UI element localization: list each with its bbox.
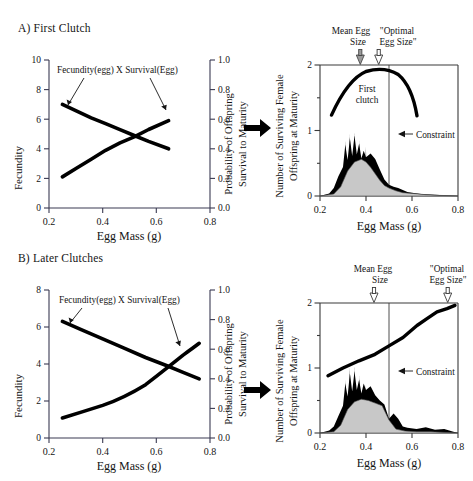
flow-arrow-b-icon [244, 378, 272, 406]
xtick-b-right-04: 0.4 [360, 441, 373, 452]
y-ticks-left-b [44, 290, 49, 438]
ytick-b-right-panel-0: 0 [307, 428, 312, 438]
survival-curve-b [62, 343, 199, 418]
curve-label-a-line2: clutch [356, 95, 379, 105]
axis-label-survival-a-line1: Probability of Offspring [223, 93, 234, 195]
constraint-label-a: Constraint [416, 130, 455, 140]
y-ticks-b-right [315, 303, 321, 433]
panel-b-right-chart: Number of Surviving Female Offspring at … [272, 255, 473, 481]
ytick-a-right-panel-2: 2 [307, 60, 312, 70]
axis-label-offspring-a-line2: Offspring at Maturity [288, 90, 299, 181]
mean-egg-size-label-a-line2: Size [350, 37, 366, 47]
xtick-a-right-04: 0.4 [360, 204, 373, 215]
ytick-a-left-4: 4 [36, 144, 41, 154]
panel-b-left-chart: Fecundity 0 2 4 6 8 [0, 278, 250, 473]
optimal-egg-size-label-a-line1: "Optimal [380, 26, 415, 36]
fecundity-survival-svg-b: Fecundity 0 2 4 6 8 [0, 278, 250, 473]
ytick-a-left-6: 6 [36, 115, 41, 125]
panel-a-left-chart: Fecundity 0 2 4 6 8 10 [0, 48, 250, 243]
axis-label-survival-wrap-b: Probability of Offspring Survival to Mat… [215, 278, 275, 473]
ytick-a-left-0: 0 [36, 203, 41, 213]
constraint-label-b: Constraint [416, 367, 455, 377]
mean-egg-size-label-a-line1: Mean Egg [332, 26, 371, 36]
xtick-b-right-06: 0.6 [406, 441, 419, 452]
axis-label-eggmass-b-left: Egg Mass (g) [97, 459, 162, 473]
x-ticks-b-left [49, 438, 210, 443]
optimal-egg-size-marker-b [444, 288, 452, 303]
flow-arrow-a-icon [244, 116, 272, 144]
xtick-a-left-02: 0.2 [43, 216, 56, 227]
axis-label-eggmass-a-left: Egg Mass (g) [97, 229, 162, 243]
axis-label-eggmass-b-right: Egg Mass (g) [357, 456, 422, 470]
axis-label-survival-wrap-a: Probability of Offspring Survival to Mat… [215, 48, 275, 243]
fitness-curve-path-b [328, 305, 455, 375]
ytick-b-right-panel-1: 1 [307, 363, 312, 373]
ytick-b-left-8: 8 [36, 285, 41, 295]
ytick-a-left-8: 8 [36, 85, 41, 95]
ytick-a-left-10: 10 [32, 55, 42, 65]
section-title-b: B) Later Clutches [18, 252, 103, 264]
x-ticks-a-right [320, 196, 458, 201]
ytick-b-left-0: 0 [36, 433, 41, 443]
annotation-label-b: Fecundity(egg) X Survival(Egg) [59, 295, 180, 306]
optimal-egg-size-label-a-line2: Egg Size" [379, 37, 416, 47]
axis-label-eggmass-a-right: Egg Mass (g) [357, 219, 422, 233]
optimal-egg-size-marker-a [375, 50, 383, 65]
fecundity-curve-b [62, 321, 199, 378]
panel-a-right-chart: Number of Surviving Female Offspring at … [272, 14, 473, 246]
xtick-a-right-06: 0.6 [406, 204, 419, 215]
xtick-a-right-02: 0.2 [314, 204, 327, 215]
xtick-b-right-08: 0.8 [452, 441, 465, 452]
mean-egg-size-marker-a [356, 50, 364, 65]
mean-egg-size-label-b-line2: Size [372, 275, 388, 285]
ytick-a-right-panel-0: 0 [307, 191, 312, 201]
axis-label-offspring-a-line1: Number of Surviving Female [274, 74, 285, 198]
annotation-label-a: Fecundity(egg) X Survival(Egg) [57, 65, 178, 76]
ytick-a-left-2: 2 [36, 174, 41, 184]
axis-label-fecundity-b: Fecundity [12, 374, 24, 418]
axis-label-survival-b-line1: Probability of Offspring [223, 323, 234, 425]
y-ticks-a-right [315, 65, 321, 196]
x-ticks-a-left [49, 208, 210, 213]
ytick-b-left-6: 6 [36, 322, 41, 332]
y-ticks-left-a [44, 60, 49, 208]
constraint-annotation-b: Constraint [398, 367, 455, 377]
annotation-arrows-b [70, 308, 180, 346]
xtick-b-left-04: 0.4 [96, 446, 109, 457]
xtick-b-left-06: 0.6 [150, 446, 163, 457]
mean-egg-size-label-b-line1: Mean Egg [354, 264, 393, 274]
constraint-annotation-a: Constraint [398, 130, 455, 140]
ytick-b-right-panel-2: 2 [307, 298, 312, 308]
mean-egg-size-marker-b [370, 288, 378, 303]
optimal-egg-size-label-b-line1: "Optimal [430, 264, 465, 274]
xtick-b-left-02: 0.2 [43, 446, 56, 457]
x-ticks-b-right [320, 433, 458, 438]
xtick-b-right-02: 0.2 [314, 441, 327, 452]
curve-label-a-line1: First [358, 84, 375, 94]
ytick-b-left-2: 2 [36, 396, 41, 406]
axis-label-offspring-b-line2: Offspring at Maturity [288, 335, 299, 426]
ytick-b-left-4: 4 [36, 359, 41, 369]
xtick-a-left-04: 0.4 [96, 216, 109, 227]
annotation-arrows-a [68, 78, 166, 110]
surviving-offspring-svg-a: Number of Surviving Female Offspring at … [272, 14, 473, 246]
xtick-a-right-08: 0.8 [452, 204, 465, 215]
surviving-offspring-svg-b: Number of Surviving Female Offspring at … [272, 255, 473, 481]
section-title-a: A) First Clutch [18, 22, 91, 34]
optimal-egg-size-label-b-line2: Egg Size" [429, 275, 466, 285]
axis-label-fecundity-a: Fecundity [12, 146, 24, 190]
fecundity-survival-svg-a: Fecundity 0 2 4 6 8 10 [0, 48, 250, 243]
axis-label-offspring-b-line1: Number of Surviving Female [274, 319, 285, 443]
ytick-a-right-panel-1: 1 [307, 126, 312, 136]
xtick-a-left-06: 0.6 [150, 216, 163, 227]
